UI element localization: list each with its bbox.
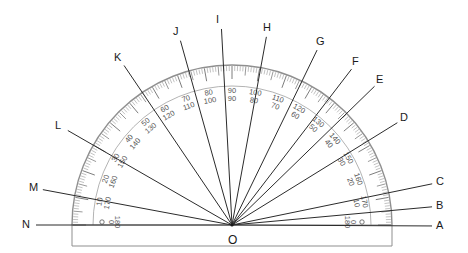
graduation-tick xyxy=(100,136,104,139)
graduation-tick xyxy=(157,85,159,89)
scale-number-inner: 70 xyxy=(270,100,281,111)
graduation-tick xyxy=(165,81,169,89)
graduation-tick xyxy=(253,68,254,73)
graduation-tick xyxy=(97,141,101,144)
scale-number-inner: 20 xyxy=(345,176,356,187)
graduation-tick xyxy=(360,136,364,139)
ray-line-b xyxy=(232,207,432,225)
graduation-tick xyxy=(378,176,383,178)
graduation-tick xyxy=(329,101,332,105)
graduation-tick xyxy=(280,74,282,79)
graduation-tick xyxy=(282,75,284,80)
graduation-tick xyxy=(81,176,86,178)
graduation-tick xyxy=(307,86,309,90)
ray-label-c: C xyxy=(436,176,444,187)
graduation-tick xyxy=(382,189,387,190)
graduation-tick xyxy=(355,129,359,132)
graduation-tick xyxy=(304,85,306,89)
graduation-tick xyxy=(361,138,365,141)
graduation-tick xyxy=(75,200,80,201)
graduation-tick xyxy=(311,89,314,93)
graduation-tick xyxy=(89,155,93,157)
ray-line-i xyxy=(221,29,232,225)
graduation-tick xyxy=(373,160,378,162)
graduation-tick xyxy=(215,67,216,72)
graduation-tick xyxy=(314,90,317,94)
ray-label-h: H xyxy=(263,22,271,33)
graduation-tick xyxy=(79,181,84,182)
ray-line-l xyxy=(68,130,232,225)
graduation-tick xyxy=(116,117,120,120)
graduation-tick xyxy=(358,146,369,153)
graduation-tick xyxy=(194,71,195,76)
graduation-tick xyxy=(86,163,91,165)
graduation-tick xyxy=(370,155,374,157)
ray-line-a xyxy=(232,225,432,226)
graduation-tick xyxy=(134,100,137,104)
graduation-tick xyxy=(380,181,385,182)
graduation-tick xyxy=(375,165,380,167)
graduation-tick xyxy=(323,96,326,100)
graduation-tick xyxy=(302,83,304,87)
graduation-tick xyxy=(183,74,185,79)
ray-line-k xyxy=(124,65,232,225)
graduation-tick xyxy=(80,179,85,180)
graduation-tick xyxy=(199,69,200,74)
ray-label-k: K xyxy=(114,52,121,63)
graduation-tick xyxy=(207,68,208,73)
graduation-tick xyxy=(132,101,135,105)
graduation-tick xyxy=(339,111,342,115)
graduation-tick xyxy=(218,67,219,76)
graduation-tick xyxy=(107,127,111,130)
graduation-tick xyxy=(353,127,357,130)
graduation-tick xyxy=(385,203,390,204)
graduation-tick xyxy=(78,187,83,188)
graduation-tick xyxy=(348,121,352,124)
ray-label-i: I xyxy=(216,14,219,25)
graduation-tick xyxy=(287,77,289,82)
graduation-tick xyxy=(277,73,278,78)
graduation-tick xyxy=(318,93,321,97)
graduation-tick xyxy=(103,132,107,135)
graduation-tick xyxy=(162,82,164,86)
graduation-tick xyxy=(295,80,297,85)
ray-label-g: G xyxy=(316,36,325,47)
graduation-tick xyxy=(76,192,81,193)
graduation-tick xyxy=(74,211,83,212)
graduation-tick xyxy=(92,150,96,152)
graduation-tick xyxy=(124,109,127,113)
graduation-tick xyxy=(264,69,265,74)
graduation-tick xyxy=(105,129,109,132)
ray-label-e: E xyxy=(376,74,383,85)
graduation-tick xyxy=(368,158,376,162)
scale-number-inner: 170 xyxy=(102,196,113,210)
graduation-tick xyxy=(384,200,389,201)
graduation-tick xyxy=(376,168,381,170)
graduation-tick xyxy=(110,123,120,131)
graduation-tick xyxy=(120,113,126,119)
graduation-tick xyxy=(136,98,139,102)
graduation-tick xyxy=(180,75,182,80)
graduation-tick xyxy=(74,206,79,207)
graduation-tick xyxy=(377,184,386,186)
graduation-tick xyxy=(155,86,157,90)
graduation-tick xyxy=(196,70,197,75)
graduation-tick xyxy=(87,160,92,162)
graduation-tick xyxy=(90,153,94,155)
endpoint-180-label: 180 xyxy=(343,216,352,229)
graduation-tick xyxy=(74,208,79,209)
graduation-tick xyxy=(357,132,361,135)
graduation-tick xyxy=(381,187,386,188)
graduation-tick xyxy=(99,138,103,141)
ray-label-d: D xyxy=(400,112,408,123)
graduation-tick xyxy=(269,71,270,76)
endpoint-mark-left xyxy=(100,220,104,224)
graduation-tick xyxy=(128,105,131,109)
scale-number-inner: 90 xyxy=(228,94,236,103)
graduation-tick xyxy=(118,115,122,118)
graduation-tick xyxy=(186,73,187,78)
graduation-tick xyxy=(367,148,371,150)
endpoint-mark-right xyxy=(360,220,364,224)
graduation-tick xyxy=(82,173,87,175)
graduation-tick xyxy=(337,109,340,113)
